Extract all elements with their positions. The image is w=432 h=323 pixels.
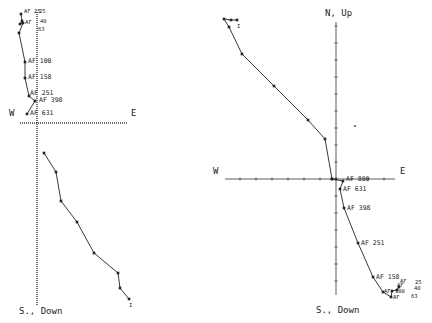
af-step-label: AF 800 bbox=[346, 175, 370, 183]
data-point bbox=[43, 152, 46, 155]
north-up-label: N, Up bbox=[325, 8, 352, 18]
af-step-label: AF 251 bbox=[361, 239, 385, 247]
data-point bbox=[390, 296, 393, 299]
demag-path bbox=[44, 153, 129, 299]
af-step-label: AF 398 bbox=[39, 96, 63, 104]
left-vector-plot: WES., DownAF 2525AF4063AF 100AF 158AF 25… bbox=[9, 8, 136, 316]
data-point bbox=[76, 221, 79, 224]
data-point bbox=[128, 298, 131, 301]
data-point bbox=[24, 61, 27, 64]
vertical-projection-series: I bbox=[43, 152, 133, 308]
af-step-label: 40 bbox=[40, 18, 47, 24]
zijderveld-plots: WES., DownAF 2525AF4063AF 100AF 158AF 25… bbox=[0, 0, 432, 323]
data-point bbox=[331, 178, 334, 181]
data-point bbox=[324, 138, 327, 141]
figure-canvas: WES., DownAF 2525AF4063AF 100AF 158AF 25… bbox=[0, 0, 432, 323]
data-point bbox=[18, 32, 21, 35]
data-point bbox=[236, 19, 239, 22]
data-point bbox=[19, 23, 22, 26]
af-step-label: 40 bbox=[414, 285, 421, 291]
af-step-label: 25 bbox=[39, 8, 46, 14]
af-step-label: AF bbox=[25, 19, 32, 25]
data-point bbox=[357, 242, 360, 245]
af-step-label: AF 631 bbox=[343, 185, 367, 193]
data-point bbox=[20, 13, 23, 16]
af-step-label: 63 bbox=[38, 26, 45, 32]
data-point bbox=[391, 290, 394, 293]
data-point bbox=[223, 18, 226, 21]
af-step-label: 25 bbox=[415, 279, 422, 285]
af-step-label: AF 398 bbox=[347, 204, 371, 212]
data-point bbox=[228, 26, 231, 29]
data-point bbox=[230, 19, 233, 22]
data-point bbox=[119, 287, 122, 290]
af-step-label: AF 100 bbox=[28, 57, 52, 65]
af-step-label: 63 bbox=[411, 293, 418, 299]
demag-path bbox=[224, 19, 332, 179]
south-down-label: S., Down bbox=[316, 305, 359, 315]
data-point bbox=[273, 85, 276, 88]
data-point bbox=[307, 119, 310, 122]
af-step-label: AF bbox=[384, 288, 391, 294]
initial-point-label: I bbox=[129, 302, 132, 308]
south-down-label: S., Down bbox=[19, 306, 62, 316]
data-point bbox=[342, 180, 345, 183]
data-point bbox=[241, 53, 244, 56]
data-point bbox=[339, 188, 342, 191]
data-point bbox=[117, 272, 120, 275]
vertical-projection-series: I bbox=[223, 18, 334, 181]
data-point bbox=[372, 276, 375, 279]
data-point bbox=[26, 113, 29, 116]
stray-mark bbox=[354, 125, 356, 126]
data-point bbox=[24, 77, 27, 80]
right-vector-plot: N, UpWES., DownIAF 800AF 631AF 398AF 251… bbox=[213, 8, 422, 315]
data-point bbox=[55, 171, 58, 174]
af-step-label: AF 158 bbox=[28, 73, 52, 81]
data-point bbox=[60, 200, 63, 203]
west-label: W bbox=[213, 166, 219, 176]
af-step-label: AF bbox=[400, 278, 407, 284]
data-point bbox=[34, 100, 37, 103]
horizontal-projection-series: AF 800AF 631AF 398AF 251AF 158AF100AF63A… bbox=[331, 175, 422, 300]
data-point bbox=[93, 252, 96, 255]
initial-point-label: I bbox=[237, 23, 240, 29]
af-step-label: AF 631 bbox=[30, 109, 54, 117]
west-label: W bbox=[9, 108, 15, 118]
af-step-label: AF bbox=[393, 294, 400, 300]
east-label: E bbox=[131, 108, 136, 118]
horizontal-projection-series: AF 2525AF4063AF 100AF 158AF 251AF 398AF … bbox=[18, 8, 63, 117]
data-point bbox=[22, 22, 25, 25]
af-step-label: AF 158 bbox=[376, 273, 400, 281]
east-label: E bbox=[400, 166, 405, 176]
data-point bbox=[343, 207, 346, 210]
